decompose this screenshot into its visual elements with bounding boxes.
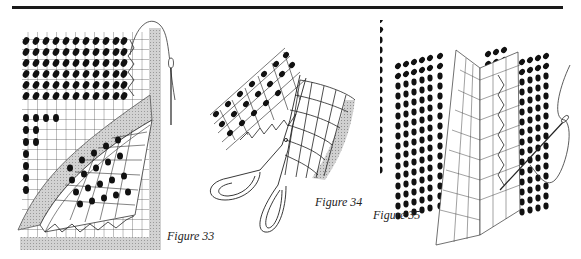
figure-35: Figure 35: [380, 20, 581, 259]
figure-35-caption: Figure 35: [373, 208, 420, 223]
figure-34: Figure 34: [200, 0, 370, 259]
scissors-icon: [210, 75, 306, 232]
figure-34-illustration: [200, 0, 370, 259]
figure-33: Figure 33: [0, 0, 230, 259]
needle-eye-icon: [169, 58, 174, 68]
figure-34-caption: Figure 34: [315, 195, 362, 210]
figure-35-illustration: [380, 20, 581, 259]
figure-33-illustration: [0, 0, 230, 259]
